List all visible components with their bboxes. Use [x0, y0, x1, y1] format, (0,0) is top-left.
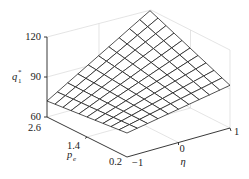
svg-text:*: *	[18, 68, 22, 76]
z-tick-60: 60	[31, 111, 42, 122]
y-axis-label: p e	[66, 149, 76, 163]
x-tick-minus1: −1	[132, 157, 143, 168]
y-tick-2-6: 2.6	[28, 122, 41, 133]
x-axis-label: η	[180, 156, 185, 167]
z-axis-label: q 1 *	[12, 68, 22, 85]
svg-text:e: e	[73, 155, 76, 163]
x-tick-0: 0	[179, 143, 184, 154]
surface-mesh	[47, 11, 230, 133]
z-tick-120: 120	[25, 31, 41, 42]
svg-text:p: p	[66, 149, 72, 160]
surface-plot: 120 90 60 q 1 * 2.6 1.4 0.2 p e −1 0 1 η	[0, 0, 249, 179]
x-tick-1: 1	[234, 126, 239, 137]
y-tick-0-2: 0.2	[109, 156, 122, 167]
svg-text:1: 1	[18, 77, 22, 85]
svg-text:q: q	[12, 71, 17, 82]
z-tick-90: 90	[31, 71, 42, 82]
